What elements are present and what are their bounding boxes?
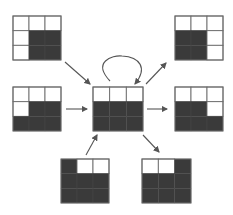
empty-cell bbox=[13, 87, 29, 102]
filled-cell bbox=[45, 45, 61, 60]
grid-center bbox=[93, 87, 143, 131]
filled-cell bbox=[29, 45, 45, 60]
empty-cell bbox=[207, 45, 223, 60]
grid-top-left bbox=[13, 16, 61, 60]
arrow-center-to-bottom-right-icon bbox=[143, 135, 159, 152]
filled-cell bbox=[142, 174, 158, 189]
empty-cell bbox=[77, 159, 93, 174]
filled-cell bbox=[29, 116, 45, 131]
empty-cell bbox=[29, 87, 45, 102]
empty-cell bbox=[207, 16, 223, 31]
filled-cell bbox=[29, 102, 45, 117]
filled-cell bbox=[158, 188, 174, 203]
filled-cell bbox=[45, 102, 61, 117]
empty-cell bbox=[126, 87, 143, 102]
grid-top-right bbox=[175, 16, 223, 60]
empty-cell bbox=[45, 16, 61, 31]
filled-cell bbox=[29, 31, 45, 46]
self-loop-arrow-icon bbox=[103, 56, 142, 84]
empty-cell bbox=[13, 102, 29, 117]
filled-cell bbox=[110, 102, 127, 117]
grid-bottom-right bbox=[142, 159, 191, 203]
filled-cell bbox=[93, 188, 109, 203]
grid-layer bbox=[13, 16, 223, 203]
filled-cell bbox=[126, 116, 143, 131]
grid-bottom-left bbox=[61, 159, 109, 203]
empty-cell bbox=[207, 87, 223, 102]
empty-cell bbox=[13, 45, 29, 60]
filled-cell bbox=[191, 45, 207, 60]
empty-cell bbox=[93, 159, 109, 174]
empty-cell bbox=[207, 31, 223, 46]
empty-cell bbox=[110, 87, 127, 102]
filled-cell bbox=[45, 31, 61, 46]
grid-middle-left bbox=[13, 87, 61, 131]
filled-cell bbox=[61, 174, 77, 189]
filled-cell bbox=[93, 174, 109, 189]
filled-cell bbox=[45, 116, 61, 131]
arrow-center-to-top-right-icon bbox=[146, 63, 166, 84]
filled-cell bbox=[142, 188, 158, 203]
filled-cell bbox=[110, 116, 127, 131]
empty-cell bbox=[45, 87, 61, 102]
state-diagram bbox=[0, 0, 233, 215]
filled-cell bbox=[61, 159, 77, 174]
empty-cell bbox=[158, 159, 174, 174]
grid-middle-right bbox=[175, 87, 223, 131]
filled-cell bbox=[175, 159, 191, 174]
empty-cell bbox=[93, 87, 110, 102]
filled-cell bbox=[175, 174, 191, 189]
arrow-bottom-left-to-center-icon bbox=[86, 135, 97, 155]
filled-cell bbox=[61, 188, 77, 203]
filled-cell bbox=[175, 102, 191, 117]
filled-cell bbox=[175, 188, 191, 203]
arrow-top-left-to-center-icon bbox=[65, 62, 90, 84]
filled-cell bbox=[126, 102, 143, 117]
filled-cell bbox=[207, 116, 223, 131]
empty-cell bbox=[13, 31, 29, 46]
empty-cell bbox=[142, 159, 158, 174]
empty-cell bbox=[175, 16, 191, 31]
filled-cell bbox=[77, 188, 93, 203]
empty-cell bbox=[191, 16, 207, 31]
empty-cell bbox=[207, 102, 223, 117]
filled-cell bbox=[191, 102, 207, 117]
filled-cell bbox=[13, 116, 29, 131]
empty-cell bbox=[191, 87, 207, 102]
empty-cell bbox=[29, 16, 45, 31]
filled-cell bbox=[175, 116, 191, 131]
filled-cell bbox=[191, 31, 207, 46]
filled-cell bbox=[191, 116, 207, 131]
filled-cell bbox=[175, 31, 191, 46]
empty-cell bbox=[13, 16, 29, 31]
filled-cell bbox=[175, 45, 191, 60]
filled-cell bbox=[77, 174, 93, 189]
filled-cell bbox=[93, 102, 110, 117]
filled-cell bbox=[93, 116, 110, 131]
empty-cell bbox=[175, 87, 191, 102]
filled-cell bbox=[158, 174, 174, 189]
